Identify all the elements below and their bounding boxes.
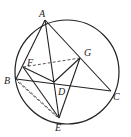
label-G: G xyxy=(84,47,91,58)
label-A: A xyxy=(38,8,46,19)
geometry-diagram: A B C D E F G xyxy=(0,0,131,137)
label-E: E xyxy=(54,122,61,133)
circumcircle xyxy=(15,20,119,124)
label-B: B xyxy=(4,75,10,86)
segment-AC xyxy=(45,20,111,91)
label-D: D xyxy=(57,86,66,97)
label-F: F xyxy=(26,57,34,68)
label-C: C xyxy=(113,91,120,102)
segment-FE xyxy=(23,67,59,118)
segment-AE xyxy=(45,20,59,118)
